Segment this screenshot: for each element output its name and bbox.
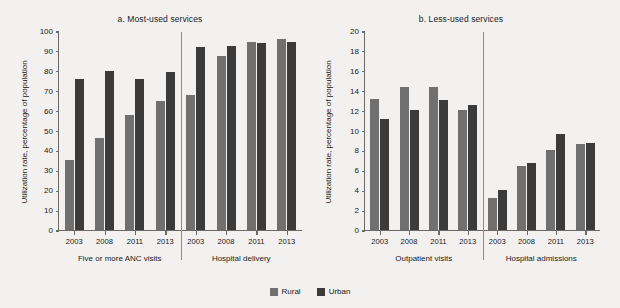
bar-group-2011	[120, 32, 150, 230]
bar-rural-2013	[576, 144, 585, 230]
bar-supergroup	[181, 32, 303, 230]
bar-urban-2008	[410, 110, 419, 230]
bar-rural-2013	[277, 39, 286, 230]
legend-item-rural: Rural	[270, 287, 301, 296]
panel-a-bar-groups	[59, 32, 302, 230]
bar-rural-2008	[400, 87, 409, 230]
bar-urban-2011	[135, 79, 144, 230]
bar-urban-2013	[166, 72, 175, 230]
figure-container: a. Most-used services Utilization rate, …	[0, 0, 620, 308]
bar-urban-2013	[468, 105, 477, 230]
bar-urban-2011	[257, 43, 266, 230]
bar-urban-2013	[586, 143, 595, 230]
group-label: Five or more ANC visits	[59, 254, 181, 263]
bar-rural-2013	[458, 110, 467, 230]
panel-b-title: b. Less-used services	[312, 14, 610, 24]
bar-urban-2003	[498, 190, 507, 230]
bar-group-2011	[424, 32, 453, 230]
bar-urban-2011	[556, 134, 565, 231]
bar-group-2003	[365, 32, 394, 230]
legend-item-urban: Urban	[317, 287, 351, 296]
panel-a-title: a. Most-used services	[10, 14, 310, 24]
bar-rural-2003	[65, 160, 74, 230]
bar-group-2011	[541, 32, 570, 230]
bar-rural-2003	[488, 198, 497, 230]
bar-urban-2003	[75, 79, 84, 230]
legend-swatch-icon	[270, 288, 278, 296]
bar-group-2013	[150, 32, 180, 230]
legend-swatch-icon	[317, 288, 325, 296]
bar-group-2008	[512, 32, 541, 230]
panel-a-plot-area: 0102030405060708090100 20032008201120132…	[58, 32, 302, 231]
bar-group-2008	[211, 32, 241, 230]
bar-urban-2003	[380, 119, 389, 230]
panel-less-used-services: b. Less-used services Utilization rate, …	[312, 0, 610, 276]
group-label: Outpatient visits	[365, 254, 483, 263]
bar-group-2008	[394, 32, 423, 230]
group-label: Hospital admissions	[483, 254, 601, 263]
bar-urban-2013	[287, 42, 296, 230]
bar-urban-2011	[439, 100, 448, 230]
bar-group-2011	[241, 32, 271, 230]
legend-label: Urban	[329, 287, 351, 296]
bar-rural-2011	[546, 150, 555, 230]
bar-rural-2008	[217, 56, 226, 230]
bar-rural-2011	[125, 115, 134, 230]
bar-group-2013	[453, 32, 482, 230]
bar-urban-2003	[196, 47, 205, 230]
chart-legend: RuralUrban	[0, 287, 620, 296]
panel-b-y-axis-label: Utilization rate, percentage of populati…	[324, 60, 333, 203]
bar-urban-2008	[105, 71, 114, 230]
bar-rural-2008	[517, 166, 526, 230]
bar-group-2003	[483, 32, 512, 230]
bar-group-2003	[59, 32, 89, 230]
bar-supergroup	[59, 32, 181, 230]
panel-b-plot-area: 02468101214161820 2003200820112013200320…	[364, 32, 600, 231]
bar-urban-2008	[227, 46, 236, 230]
bar-group-2003	[181, 32, 211, 230]
legend-label: Rural	[282, 287, 301, 296]
bar-rural-2003	[370, 99, 379, 230]
bar-rural-2011	[429, 87, 438, 230]
panel-most-used-services: a. Most-used services Utilization rate, …	[10, 0, 310, 276]
bar-group-2008	[89, 32, 119, 230]
bar-rural-2013	[156, 101, 165, 230]
bar-urban-2008	[527, 163, 536, 230]
bar-rural-2008	[95, 138, 104, 230]
bar-supergroup	[365, 32, 483, 230]
group-label: Hospital delivery	[181, 254, 303, 263]
bar-supergroup	[483, 32, 601, 230]
bar-rural-2011	[247, 42, 256, 230]
panel-a-y-axis-label: Utilization rate, percentage of populati…	[20, 60, 29, 203]
panel-a-group-labels: Five or more ANC visitsHospital delivery	[59, 230, 302, 263]
bar-rural-2003	[186, 95, 195, 230]
panel-b-bar-groups	[365, 32, 600, 230]
panel-b-group-labels: Outpatient visitsHospital admissions	[365, 230, 600, 263]
bar-group-2013	[272, 32, 302, 230]
bar-group-2013	[571, 32, 600, 230]
